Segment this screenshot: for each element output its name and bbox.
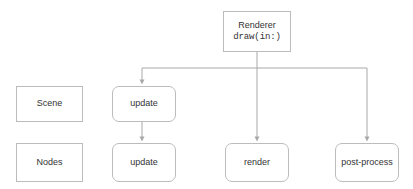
node-render[interactable]: render — [225, 143, 289, 182]
node-scene[interactable]: Scene — [16, 86, 83, 122]
node-nodes-label: Nodes — [36, 157, 62, 168]
node-render-label: render — [244, 157, 270, 168]
node-update-bottom[interactable]: update — [112, 143, 176, 182]
node-update-top[interactable]: update — [112, 86, 176, 122]
node-renderer-sublabel: draw(in:) — [233, 32, 281, 43]
node-update-bottom-label: update — [130, 157, 158, 168]
node-post-process-label: post-process — [341, 157, 393, 168]
node-nodes[interactable]: Nodes — [16, 143, 83, 182]
node-update-top-label: update — [130, 98, 158, 109]
node-renderer[interactable]: Renderer draw(in:) — [223, 11, 291, 52]
diagram-canvas: Renderer draw(in:) Scene update Nodes up… — [0, 0, 413, 189]
node-post-process[interactable]: post-process — [335, 143, 399, 182]
node-renderer-label: Renderer — [238, 20, 276, 31]
node-scene-label: Scene — [37, 98, 63, 109]
